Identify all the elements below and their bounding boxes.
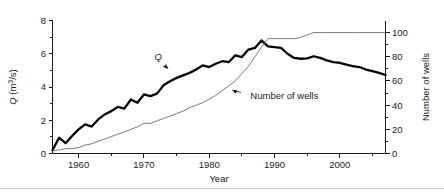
axes-group: 0246802040608010019601970198019902000 bbox=[41, 15, 408, 170]
y-right-tick-label: 0 bbox=[392, 148, 397, 159]
y-left-tick-label: 6 bbox=[41, 48, 46, 59]
q-annotation-arrowhead bbox=[163, 64, 168, 69]
x-tick-label: 1980 bbox=[199, 159, 220, 170]
y-left-axis-title: Q (m3/s) bbox=[7, 69, 18, 105]
y-left-tick-label: 0 bbox=[41, 148, 46, 159]
chart-figure: 0246802040608010019601970198019902000 QN… bbox=[0, 0, 444, 192]
series-group bbox=[53, 33, 386, 151]
y-right-tick-label: 20 bbox=[392, 124, 403, 135]
y-left-title-unit-suffix: /s) bbox=[7, 69, 18, 80]
y-left-tick-label: 2 bbox=[41, 115, 46, 126]
x-tick-label: 2000 bbox=[329, 159, 350, 170]
x-tick-label: 1960 bbox=[68, 159, 89, 170]
series-line-q bbox=[53, 40, 386, 150]
y-right-tick-label: 100 bbox=[392, 27, 408, 38]
svg-text:Number of wells: Number of wells bbox=[420, 53, 431, 121]
y-right-tick-label: 80 bbox=[392, 51, 403, 62]
y-right-tick-label: 40 bbox=[392, 100, 403, 111]
y-left-title-unit-prefix: (m bbox=[7, 84, 18, 98]
wells-annotation-label: Number of wells bbox=[250, 90, 318, 101]
y-left-tick-label: 4 bbox=[41, 81, 46, 92]
x-tick-label: 1990 bbox=[264, 159, 285, 170]
x-axis-title: Year bbox=[209, 173, 228, 184]
q-annotation-label: Q bbox=[155, 51, 163, 62]
wells-annotation-arrowhead bbox=[232, 90, 237, 94]
x-tick-label: 1970 bbox=[133, 159, 154, 170]
y-right-axis-title: Number of wells bbox=[420, 53, 431, 121]
y-right-tick-label: 60 bbox=[392, 75, 403, 86]
svg-text:Q (m3/s): Q (m3/s) bbox=[7, 69, 18, 105]
chart-canvas: 0246802040608010019601970198019902000 QN… bbox=[0, 0, 444, 192]
y-left-tick-label: 8 bbox=[41, 15, 46, 26]
series-line-number-of-wells bbox=[53, 33, 386, 151]
